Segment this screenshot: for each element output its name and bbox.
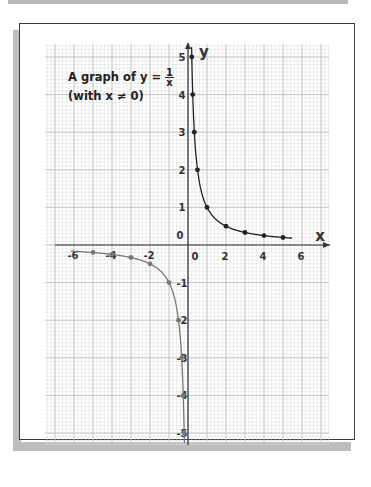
- x-tick-label: 6: [298, 251, 305, 262]
- chart-title: A graph of y = 1 x (with x ≠ 0): [68, 68, 174, 105]
- data-point: [224, 224, 229, 229]
- x-tick-label: 2: [222, 251, 229, 262]
- y-tick-label: 0: [177, 230, 184, 241]
- x-tick-label: 0: [192, 251, 199, 262]
- y-tick-label: 2: [179, 165, 186, 176]
- data-point: [167, 280, 172, 285]
- data-point: [281, 235, 286, 240]
- y-tick-label: 3: [179, 127, 186, 138]
- data-point: [243, 230, 248, 235]
- title-prefix: A graph of y =: [68, 70, 161, 84]
- x-axis-label: x: [315, 227, 325, 245]
- y-tick-label: 1: [179, 202, 186, 213]
- data-point: [176, 318, 181, 323]
- data-point: [262, 233, 267, 238]
- data-point: [205, 205, 210, 210]
- chart-subtitle: (with x ≠ 0): [68, 89, 144, 103]
- data-point: [181, 393, 186, 398]
- title-fraction: 1 x: [165, 68, 174, 87]
- x-tick-label: -2: [143, 250, 154, 261]
- data-point: [91, 250, 96, 255]
- y-axis-label: y: [199, 43, 209, 61]
- data-point: [195, 167, 200, 172]
- x-tick-label: 4: [260, 251, 267, 262]
- data-point: [148, 261, 153, 266]
- data-point: [190, 92, 195, 97]
- data-point: [189, 55, 194, 60]
- y-tick-label: -1: [176, 278, 187, 289]
- data-point: [110, 252, 115, 257]
- data-point: [129, 255, 134, 260]
- plot-area: yx-6-4-20246543210-1-2-3-4-5: [0, 0, 371, 487]
- data-point: [192, 130, 197, 135]
- y-tick-label: 5: [179, 52, 186, 63]
- data-point: [179, 355, 184, 360]
- y-tick-label: 4: [179, 90, 186, 101]
- data-point: [182, 431, 187, 436]
- title-denominator: x: [165, 78, 174, 87]
